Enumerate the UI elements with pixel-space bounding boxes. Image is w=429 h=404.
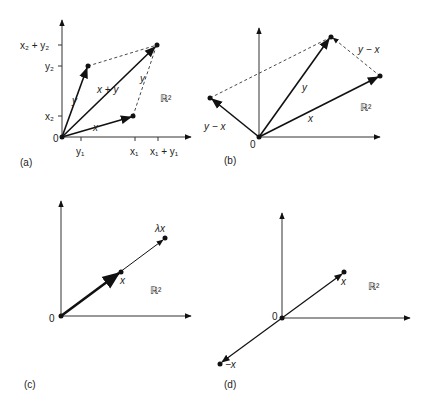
xtick-label: y₁ [76, 146, 85, 157]
vector-x [61, 273, 119, 316]
vector-label: −x [225, 359, 237, 370]
origin-label: 0 [49, 313, 55, 324]
vector-y [259, 39, 329, 137]
panel-a: x₂ + y₂ y₂ x₂ y₁ x₁ x₁ + y₁ 0 y x + y x … [20, 20, 191, 168]
origin-label: 0 [272, 311, 278, 322]
caption: (a) [20, 157, 32, 168]
xtick-label: x₁ [130, 146, 139, 157]
vector-label: x [119, 275, 126, 286]
vector-label: x [307, 113, 314, 124]
caption: (d) [224, 379, 236, 390]
dashed-edge [210, 37, 331, 98]
vector-label: y [139, 73, 146, 84]
ytick-label: x₂ [45, 111, 54, 122]
vector-x [282, 274, 342, 318]
origin-label: 0 [250, 139, 256, 150]
space-label: ℝ² [368, 281, 380, 292]
vector-label: y − x [357, 44, 380, 55]
vector-diagrams: x₂ + y₂ y₂ x₂ y₁ x₁ x₁ + y₁ 0 y x + y x … [0, 0, 429, 404]
space-label: ℝ² [150, 285, 162, 296]
vector-label: y [71, 95, 78, 106]
vector-label: x [92, 122, 99, 133]
vector-neg [222, 318, 282, 362]
xtick-label: x₁ + y₁ [150, 146, 179, 157]
panel-c: 0 λx x ℝ² (c) [24, 201, 191, 390]
panel-b: 0 y − x y − x y x ℝ² (b) [203, 28, 383, 166]
vector-label: λx [154, 223, 166, 234]
vector-label: y [301, 82, 308, 93]
vector-label: y − x [203, 121, 226, 132]
vector-label: x [340, 276, 347, 287]
caption: (b) [224, 155, 236, 166]
ytick-label: y₂ [45, 61, 54, 72]
panel-d: 0 x −x ℝ² (d) [218, 213, 411, 390]
origin-label: 0 [53, 133, 59, 144]
space-label: ℝ² [360, 102, 372, 113]
caption: (c) [24, 379, 36, 390]
space-label: ℝ² [160, 93, 172, 104]
vector-label: x + y [96, 84, 119, 95]
ytick-label: x₂ + y₂ [20, 40, 49, 51]
